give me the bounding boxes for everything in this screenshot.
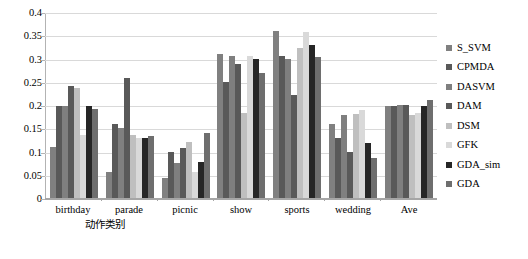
bars: [217, 13, 265, 198]
y-axis-tick-mark: [41, 60, 45, 61]
bar: [371, 158, 377, 198]
bar-group-show: [214, 13, 270, 198]
legend-swatch-icon: [446, 64, 452, 70]
bar: [427, 100, 433, 198]
legend-label: DASVM: [457, 82, 495, 93]
bars: [329, 13, 377, 198]
legend-swatch-icon: [446, 162, 452, 168]
y-axis-tick-labels: 00.050.10.150.20.250.30.350.4: [8, 8, 42, 204]
legend-swatch-icon: [446, 142, 452, 148]
bar-group-birthday: [46, 13, 102, 198]
y-axis-tick-label: 0.25: [24, 78, 42, 89]
legend-item-gfk: GFK: [446, 136, 526, 156]
bar-group-picnic: [158, 13, 214, 198]
legend-item-gda: GDA: [446, 175, 526, 195]
y-axis-tick-mark: [41, 106, 45, 107]
bar-chart: 00.050.10.150.20.250.30.350.4 birthdaypa…: [0, 0, 528, 259]
y-axis-tick-mark: [41, 176, 45, 177]
legend-swatch-icon: [446, 123, 452, 129]
bars: [385, 13, 433, 198]
y-axis-tick-mark: [41, 83, 45, 84]
bar: [315, 57, 321, 198]
bars: [50, 13, 98, 198]
bars: [273, 13, 321, 198]
y-axis-tick-mark: [41, 36, 45, 37]
bar-group-ave: [381, 13, 437, 198]
bar: [148, 136, 154, 198]
bottom-divider: [0, 248, 528, 249]
x-axis-tick-label: wedding: [325, 201, 381, 219]
legend-swatch-icon: [446, 84, 452, 90]
bar-group-wedding: [325, 13, 381, 198]
x-axis-tick-label: sports: [269, 201, 325, 219]
bar-group-parade: [102, 13, 158, 198]
legend-item-dsm: DSM: [446, 116, 526, 136]
legend-item-gda_sim: GDA_sim: [446, 155, 526, 175]
legend-label: S_SVM: [457, 43, 491, 54]
gridline: [45, 199, 437, 200]
legend-item-dam: DAM: [446, 97, 526, 117]
x-axis-tick-label: Ave: [381, 201, 437, 219]
legend-item-dasvm: DASVM: [446, 77, 526, 97]
y-axis-tick-mark: [41, 129, 45, 130]
x-axis-title: 动作类别: [45, 216, 165, 231]
legend-label: CPMDA: [457, 62, 494, 73]
legend-label: GDA: [457, 179, 480, 190]
bar: [92, 109, 98, 198]
bar-group-sports: [269, 13, 325, 198]
legend-item-cpmda: CPMDA: [446, 58, 526, 78]
bar-groups: [46, 13, 437, 198]
bars: [106, 13, 154, 198]
legend-label: DAM: [457, 101, 482, 112]
x-axis-tick-label: picnic: [157, 201, 213, 219]
y-axis-tick-mark: [41, 153, 45, 154]
y-axis-tick-label: 0.35: [24, 31, 42, 42]
bar: [204, 133, 210, 198]
legend-label: GDA_sim: [457, 160, 500, 171]
plot-area: [45, 13, 437, 199]
y-axis-tick-mark: [41, 13, 45, 14]
legend-swatch-icon: [446, 181, 452, 187]
y-axis-tick-mark: [41, 199, 45, 200]
legend-item-s_svm: S_SVM: [446, 38, 526, 58]
legend-swatch-icon: [446, 103, 452, 109]
bars: [162, 13, 210, 198]
chart-legend: S_SVMCPMDADASVMDAMDSMGFKGDA_simGDA: [446, 38, 526, 194]
y-axis-tick-label: 0.15: [24, 124, 42, 135]
legend-label: GFK: [457, 140, 478, 151]
legend-label: DSM: [457, 121, 480, 132]
bar: [259, 73, 265, 198]
x-axis-tick-label: show: [213, 201, 269, 219]
legend-swatch-icon: [446, 45, 452, 51]
y-axis-tick-label: 0.05: [24, 171, 42, 182]
